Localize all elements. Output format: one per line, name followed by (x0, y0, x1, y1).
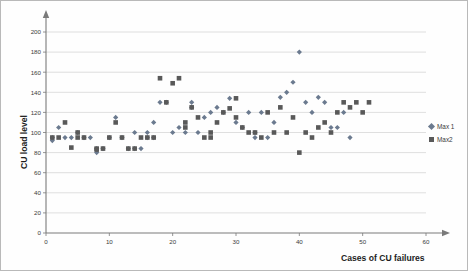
data-point-max-1 (189, 100, 194, 105)
data-point-max2 (272, 130, 277, 135)
data-point-max-1 (322, 100, 327, 105)
data-point-max2 (113, 120, 118, 125)
data-point-max-1 (88, 135, 93, 140)
legend-item-label: Max2 (437, 136, 453, 143)
x-tick-label: 10 (106, 238, 113, 245)
data-point-max2 (284, 130, 289, 135)
data-point-max-1 (246, 110, 251, 115)
data-point-max2 (341, 100, 346, 105)
data-point-max-1 (56, 125, 61, 130)
data-point-max2 (310, 135, 315, 140)
y-tick-label: 100 (31, 129, 42, 136)
y-tick-label: 180 (31, 48, 42, 55)
data-point-max2 (297, 150, 302, 155)
y-tick-label: 40 (34, 189, 41, 196)
data-point-max2 (240, 125, 245, 130)
data-point-max-1 (297, 50, 302, 55)
data-point-max2 (75, 135, 80, 140)
data-point-max2 (170, 81, 175, 86)
data-point-max2 (82, 135, 87, 140)
data-point-max2 (177, 76, 182, 81)
data-point-max2 (183, 125, 188, 130)
data-point-max2 (126, 146, 131, 151)
data-point-max2 (221, 110, 226, 115)
data-point-max2 (139, 135, 144, 140)
x-tick-label: 20 (169, 238, 176, 245)
data-point-max-1 (170, 130, 175, 135)
x-axis-arrow (442, 230, 450, 236)
data-point-max-1 (259, 110, 264, 115)
y-tick-label: 0 (38, 229, 42, 236)
data-point-max2 (145, 135, 150, 140)
y-tick-label: 80 (34, 149, 41, 156)
data-point-max-1 (214, 105, 219, 110)
data-point-max2 (158, 76, 163, 81)
y-tick-label: 200 (31, 28, 42, 35)
y-tick-label: 140 (31, 89, 42, 96)
data-point-max2 (234, 115, 239, 120)
data-point-max2 (329, 130, 334, 135)
data-point-max2 (291, 115, 296, 120)
data-point-max2 (101, 146, 106, 151)
data-point-max-1 (132, 130, 137, 135)
data-point-max2 (335, 110, 340, 115)
data-point-max2 (234, 96, 239, 101)
data-point-max-1 (69, 135, 74, 140)
data-point-max2 (164, 100, 169, 105)
data-point-max2 (132, 146, 137, 151)
legend-item[interactable]: Max2 (429, 133, 454, 146)
data-point-max2 (50, 135, 55, 140)
data-point-max-1 (335, 125, 340, 130)
data-point-max2 (107, 135, 112, 140)
data-point-max-1 (271, 120, 276, 125)
data-point-max-1 (290, 80, 295, 85)
legend-item-label: Max 1 (437, 123, 454, 130)
data-point-max2 (303, 130, 308, 135)
data-point-max2 (360, 110, 365, 115)
data-point-max2 (63, 120, 68, 125)
x-tick-label: 0 (44, 238, 48, 245)
x-tick-label: 50 (359, 238, 366, 245)
data-point-max2 (208, 135, 213, 140)
data-point-max-1 (62, 135, 67, 140)
data-point-max2 (94, 147, 99, 152)
legend-square-icon (429, 137, 434, 142)
x-axis-title-label: Cases of CU failures (341, 253, 425, 263)
plot-area: 0204060801001201401601802000102030405060 (1, 1, 468, 271)
data-point-max-1 (316, 95, 321, 100)
data-point-max2 (259, 135, 264, 140)
y-tick-label: 60 (34, 169, 41, 176)
data-point-max-1 (227, 96, 232, 101)
data-point-max-1 (341, 110, 346, 115)
legend-diamond-icon (428, 123, 435, 130)
scatter-chart: 0204060801001201401601802000102030405060… (0, 0, 468, 271)
data-point-max2 (56, 135, 61, 140)
data-point-max-1 (183, 130, 188, 135)
data-point-max-1 (309, 110, 314, 115)
data-point-max-1 (138, 146, 143, 151)
data-point-max-1 (265, 135, 270, 140)
x-tick-label: 60 (423, 238, 430, 245)
data-point-max2 (202, 135, 207, 140)
legend: Max 1Max2 (429, 120, 454, 146)
data-point-max-1 (202, 115, 207, 120)
data-point-max-1 (347, 135, 352, 140)
data-point-max2 (208, 130, 213, 135)
data-point-max-1 (176, 125, 181, 130)
data-point-max-1 (195, 130, 200, 135)
data-point-max2 (265, 110, 270, 115)
legend-item[interactable]: Max 1 (429, 120, 454, 133)
data-point-max-1 (252, 135, 257, 140)
x-tick-label: 30 (233, 238, 240, 245)
y-tick-label: 120 (31, 109, 42, 116)
data-point-max2 (183, 120, 188, 125)
x-tick-label: 40 (296, 238, 303, 245)
data-point-max2 (354, 100, 359, 105)
y-axis-title-label: CU load level (19, 115, 29, 169)
data-point-max-1 (157, 100, 162, 105)
data-point-max2 (367, 100, 372, 105)
y-tick-label: 20 (34, 209, 41, 216)
y-axis-arrow (43, 10, 49, 18)
data-point-max2 (316, 125, 321, 130)
data-point-max-1 (208, 110, 213, 115)
